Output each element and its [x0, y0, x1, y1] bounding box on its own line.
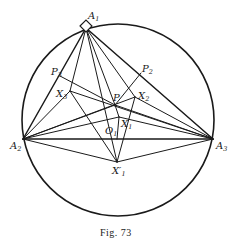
line-a2-x1p [23, 139, 117, 162]
label-a1: A1 [87, 10, 99, 23]
line-a3-p [115, 105, 213, 139]
line-a3-x1p [117, 139, 213, 162]
label-a3: A3 [215, 140, 227, 153]
line-a3-x2 [135, 97, 213, 139]
label-x3: X3 [55, 88, 67, 101]
label-p: P [112, 92, 120, 103]
line-a1-x3 [70, 28, 86, 91]
side-a1-a3 [86, 28, 213, 139]
a1-marker [80, 20, 92, 32]
line-a2-x2 [23, 97, 135, 139]
label-p3: P3 [50, 66, 62, 79]
geometry-figure: A1 A2 A3 P P2 P3 X2 X3 X1 O1 X′1 Fig. 73 [0, 0, 238, 246]
circumcircle [22, 24, 214, 216]
label-x1-prime: X′1 [111, 165, 126, 178]
label-a2: A2 [9, 140, 21, 153]
side-a1-a2 [23, 28, 86, 139]
figure-lines [22, 24, 214, 216]
line-p3-p [60, 76, 115, 105]
label-p2: P2 [141, 63, 153, 76]
line-a1-x2 [86, 28, 135, 97]
figure-caption: Fig. 73 [100, 227, 132, 238]
line-a1-p [86, 28, 115, 105]
line-a3-x1 [119, 117, 213, 139]
